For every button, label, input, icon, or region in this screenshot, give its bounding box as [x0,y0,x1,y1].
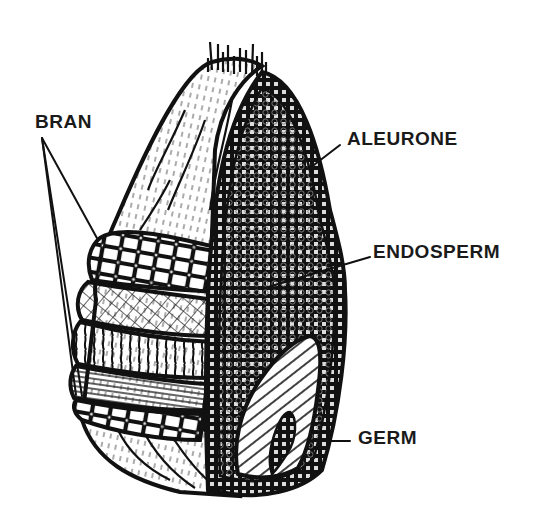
bran-layers [70,232,220,440]
wheat-kernel-diagram: BRAN ALEURONE ENDOSPERM GERM [0,0,553,532]
label-endosperm: ENDOSPERM [373,241,500,262]
label-bran: BRAN [35,111,92,132]
label-aleurone: ALEURONE [347,128,458,149]
label-germ: GERM [358,427,417,448]
